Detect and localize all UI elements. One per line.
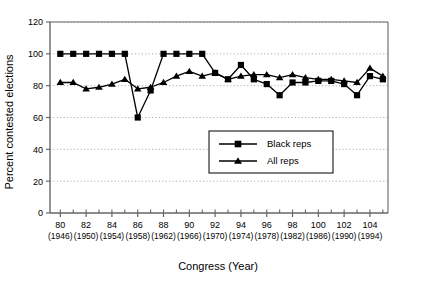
percent-contested-elections-line-chart: 020406080100120 80(1946)82(1950)84(1954)…	[0, 0, 437, 281]
x-tick-label: 90	[184, 220, 194, 230]
legend-label-triangle: All reps	[267, 155, 299, 166]
data-point-square	[186, 51, 192, 57]
data-point-square	[235, 141, 242, 148]
x-tick-label: 100	[311, 220, 326, 230]
x-tick-year-label: (1958)	[125, 231, 150, 241]
x-tick-label: 96	[262, 220, 272, 230]
data-point-square	[135, 114, 141, 120]
data-point-square	[238, 62, 244, 68]
data-point-square	[264, 81, 270, 87]
y-axis-title: Percent contested elections	[3, 54, 15, 190]
y-tick-label: 20	[33, 177, 43, 187]
chart-figure: 020406080100120 80(1946)82(1950)84(1954)…	[0, 0, 437, 281]
data-point-square	[122, 51, 128, 57]
data-point-square	[83, 51, 89, 57]
x-tick-year-label: (1950)	[74, 231, 99, 241]
data-point-square	[277, 92, 283, 98]
legend-label-square: Black reps	[267, 138, 312, 149]
x-tick-label: 104	[362, 220, 377, 230]
x-tick-year-label: (1978)	[254, 231, 279, 241]
x-tick-label: 98	[288, 220, 298, 230]
chart-legend: Black repsAll reps	[209, 131, 333, 173]
y-tick-label: 60	[33, 113, 43, 123]
data-point-square	[173, 51, 179, 57]
x-tick-year-label: (1954)	[100, 231, 125, 241]
data-point-square	[199, 51, 205, 57]
x-tick-year-label: (1970)	[203, 231, 228, 241]
data-point-square	[160, 51, 166, 57]
y-tick-label: 120	[28, 17, 43, 27]
x-tick-year-label: (1962)	[151, 231, 176, 241]
x-tick-label: 82	[81, 220, 91, 230]
x-tick-year-label: (1966)	[177, 231, 202, 241]
x-tick-label: 102	[337, 220, 352, 230]
x-tick-year-label: (1974)	[229, 231, 254, 241]
data-point-square	[354, 92, 360, 98]
data-point-square	[109, 51, 115, 57]
y-tick-label: 40	[33, 145, 43, 155]
data-point-square	[96, 51, 102, 57]
x-tick-year-label: (1994)	[358, 231, 383, 241]
x-tick-year-label: (1990)	[332, 231, 357, 241]
data-point-square	[57, 51, 63, 57]
data-point-square	[70, 51, 76, 57]
legend-box	[209, 131, 333, 173]
x-tick-label: 80	[55, 220, 65, 230]
x-tick-label: 94	[236, 220, 246, 230]
x-tick-year-label: (1986)	[306, 231, 331, 241]
y-tick-label: 80	[33, 81, 43, 91]
x-tick-label: 86	[133, 220, 143, 230]
x-tick-year-label: (1982)	[280, 231, 305, 241]
x-tick-year-label: (1946)	[48, 231, 73, 241]
x-axis-title: Congress (Year)	[178, 260, 258, 272]
y-tick-label: 0	[38, 208, 43, 218]
data-point-square	[367, 73, 373, 79]
x-tick-label: 92	[210, 220, 220, 230]
x-tick-label: 84	[107, 220, 117, 230]
y-tick-label: 100	[28, 49, 43, 59]
x-tick-label: 88	[159, 220, 169, 230]
data-point-square	[289, 79, 295, 85]
